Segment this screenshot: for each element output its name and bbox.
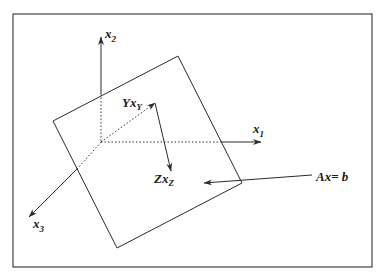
diagram-frame xyxy=(13,14,372,267)
label-Axb: Ax= b xyxy=(315,169,349,184)
diagram-canvas: x2 x1 x3 YxY ZxZ Ax= b xyxy=(0,0,384,279)
